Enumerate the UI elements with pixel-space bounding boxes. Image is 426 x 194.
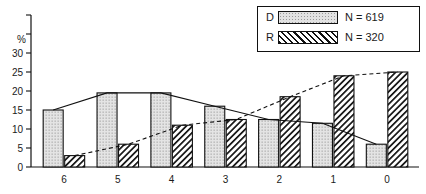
y-tick-15: 15 xyxy=(12,105,24,116)
x-tick-0: 0 xyxy=(384,174,390,185)
bar-r-2 xyxy=(280,97,300,167)
x-tick-5: 5 xyxy=(115,174,121,185)
bar-d-3 xyxy=(205,106,225,167)
bar-r-6 xyxy=(65,156,85,167)
legend-count-d: N = 619 xyxy=(338,12,384,23)
legend-key-r: R xyxy=(258,32,278,43)
x-tick-6: 6 xyxy=(61,174,67,185)
bar-d-0 xyxy=(366,144,386,167)
bar-d-6 xyxy=(43,110,63,167)
y-tick-25: 25 xyxy=(12,67,24,78)
x-tick-4: 4 xyxy=(169,174,175,185)
y-tick-10: 10 xyxy=(12,124,24,135)
bar-d-4 xyxy=(151,93,171,167)
bar-r-5 xyxy=(119,144,139,167)
bar-r-4 xyxy=(172,125,192,167)
x-tick-3: 3 xyxy=(223,174,229,185)
legend-swatch-d xyxy=(278,11,338,24)
legend-swatch-r xyxy=(278,31,338,44)
y-tick-20: 20 xyxy=(12,86,24,97)
y-tick-5: 5 xyxy=(17,143,23,154)
bar-r-1 xyxy=(334,76,354,167)
chart-figure: 051015202530 6543210 % D N = 619 R N = 3… xyxy=(0,0,426,194)
x-tick-2: 2 xyxy=(277,174,283,185)
bar-d-5 xyxy=(97,93,117,167)
bar-d-2 xyxy=(259,120,279,168)
bar-r-3 xyxy=(226,120,246,168)
legend-row: R N = 320 xyxy=(258,27,419,47)
y-tick-0: 0 xyxy=(17,162,23,173)
x-tick-1: 1 xyxy=(330,174,336,185)
legend-count-r: N = 320 xyxy=(338,32,384,43)
legend-key-d: D xyxy=(258,12,278,23)
y-tick-30: 30 xyxy=(12,48,24,59)
x-axis-tick-labels: 6543210 xyxy=(61,174,390,185)
y-axis-unit-label: % xyxy=(17,34,26,45)
legend-row: D N = 619 xyxy=(258,7,419,27)
y-axis-tick-labels: 051015202530 xyxy=(12,48,24,173)
bar-d-1 xyxy=(312,123,332,167)
chart-legend: D N = 619 R N = 320 xyxy=(257,6,420,52)
bar-r-0 xyxy=(388,72,408,167)
